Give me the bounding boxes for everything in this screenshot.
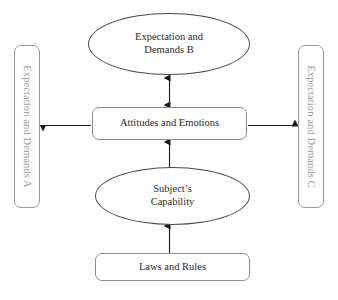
node-attitudes-and-emotions[interactable]: Attitudes and Emotions (92, 107, 247, 140)
node-subjects-capability-line2: Capability (151, 196, 195, 209)
node-subjects-capability[interactable]: Subject’s Capability (95, 167, 250, 225)
node-expectation-demands-c[interactable]: Expectation and Demands C (298, 45, 324, 208)
node-expectation-demands-b-line2: Demands B (135, 44, 203, 57)
node-subjects-capability-line1: Subject’s (151, 183, 195, 196)
node-laws-and-rules[interactable]: Laws and Rules (95, 253, 250, 281)
node-subjects-capability-label: Subject’s Capability (151, 183, 195, 209)
node-expectation-demands-c-label: Expectation and Demands C (306, 65, 317, 187)
diagram-canvas: Expectation and Demands A Expectation an… (0, 0, 338, 300)
node-laws-and-rules-label: Laws and Rules (139, 261, 206, 274)
node-expectation-demands-b[interactable]: Expectation and Demands B (88, 13, 250, 75)
node-attitudes-and-emotions-label: Attitudes and Emotions (120, 117, 219, 130)
node-expectation-demands-a[interactable]: Expectation and Demands A (14, 45, 40, 208)
node-expectation-demands-b-label: Expectation and Demands B (135, 31, 203, 57)
node-expectation-demands-b-line1: Expectation and (135, 31, 203, 44)
node-expectation-demands-a-label: Expectation and Demands A (22, 65, 33, 187)
